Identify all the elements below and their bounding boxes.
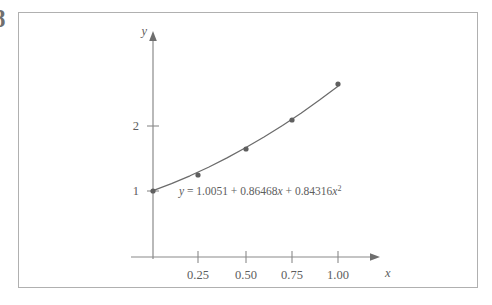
equation-plus-1: + — [228, 185, 240, 197]
y-tick-label-1: 1 — [133, 184, 139, 198]
equation-equals: = — [184, 185, 196, 197]
equation-linear-coeff: 0.86468 — [240, 185, 278, 197]
fit-equation-annotation: y = 1.0051 + 0.86468x + 0.84316x2 — [178, 184, 341, 198]
data-point — [195, 172, 200, 177]
y-axis-arrowhead — [149, 31, 157, 41]
x-axis — [131, 253, 380, 261]
plot-frame: 2 1 0.25 0.50 0.75 1.00 y x y — [18, 12, 478, 288]
equation-exponent-2: 2 — [337, 184, 341, 193]
x-tick-label-050: 0.50 — [235, 268, 257, 282]
data-point-markers — [150, 81, 340, 193]
x-tick-label-025: 0.25 — [187, 268, 209, 282]
scatter-plot-chart: 2 1 0.25 0.50 0.75 1.00 y x y — [19, 13, 477, 287]
figure-root: 8 — [0, 0, 492, 305]
y-axis — [149, 31, 157, 259]
data-point — [289, 117, 294, 122]
x-tick-label-075: 0.75 — [281, 268, 303, 282]
equation-intercept: 1.0051 — [196, 185, 228, 197]
y-tick-label-2: 2 — [133, 119, 139, 133]
data-point — [335, 81, 340, 86]
x-axis-label: x — [384, 266, 391, 280]
equation-plus-2: + — [283, 185, 295, 197]
x-tick-label-100: 1.00 — [327, 268, 349, 282]
data-point — [150, 188, 155, 193]
quadratic-fit-curve — [153, 86, 338, 190]
equation-quadratic-coeff: 0.84316 — [295, 185, 333, 197]
figure-number-glyph: 8 — [0, 6, 7, 32]
y-axis-label: y — [139, 24, 147, 38]
data-point — [243, 146, 248, 151]
x-axis-arrowhead — [370, 253, 380, 261]
